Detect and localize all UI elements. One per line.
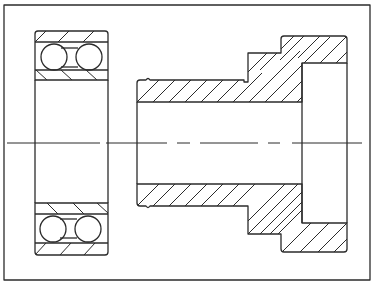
bearing-bottom-section	[35, 203, 108, 255]
technical-drawing	[0, 0, 371, 287]
sleeve-bottom-section	[137, 182, 350, 252]
stepped-sleeve	[137, 26, 350, 252]
sleeve-top-section	[137, 26, 348, 102]
bearing-top-section	[35, 31, 108, 80]
